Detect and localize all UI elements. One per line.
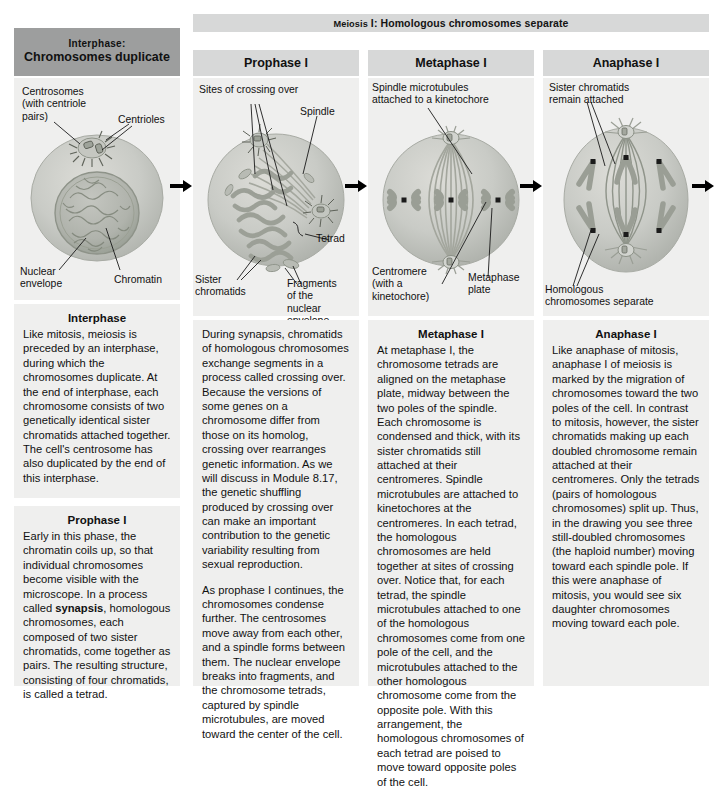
prophase-illustration: Sites of crossing over Spindle Tetrad Si… [193, 78, 359, 316]
anaphase-header: Anaphase I [543, 50, 709, 76]
interphase-header-line1: Interphase: [68, 38, 125, 51]
prophase-body-text-1: During synapsis, chromatids of homologou… [202, 327, 350, 572]
label-spindle: Spindle [300, 106, 335, 118]
column-anaphase: Anaphase I [543, 14, 709, 694]
anaphase-body-text: Like anaphase of mitosis, anaphase I of … [552, 343, 700, 631]
interphase-body-title: Interphase [23, 311, 171, 326]
metaphase-illustration: Spindle microtubules attached to a kinet… [368, 78, 534, 316]
interphase-text-block: Interphase Like mitosis, meiosis is prec… [14, 304, 180, 498]
prophase-left-text: Early in this phase, the chromatin coils… [23, 529, 171, 702]
prophase-header: Prophase I [193, 50, 359, 76]
label-sites-of-crossing-over: Sites of crossing over [199, 84, 298, 96]
label-metaphase-plate: Metaphase plate [468, 272, 519, 297]
prophase-left-bold: synapsis [55, 602, 103, 614]
label-centromere: Centromere (with a kinetochore) [372, 266, 429, 303]
label-sister-chromatids: Sister chromatids [195, 274, 246, 299]
interphase-header-line2: Chromosomes duplicate [24, 50, 170, 66]
arrow-icon-metaphase-to-anaphase [520, 178, 542, 194]
metaphase-header-text: Metaphase I [415, 56, 487, 70]
metaphase-header: Metaphase I [368, 50, 534, 76]
label-chromatin: Chromatin [114, 274, 162, 286]
anaphase-header-text: Anaphase I [593, 56, 660, 70]
metaphase-body-title: Metaphase I [377, 327, 525, 342]
anaphase-illustration: Sister chromatids remain attached Homolo… [543, 78, 709, 316]
interphase-body-text: Like mitosis, meiosis is preceded by an … [23, 327, 171, 485]
metaphase-body-text: At metaphase I, the chromosome tetrads a… [377, 343, 525, 789]
column-interphase: Interphase: Chromosomes duplicate [14, 14, 180, 694]
anaphase-body-title: Anaphase I [552, 327, 700, 342]
interphase-header: Interphase: Chromosomes duplicate [14, 28, 180, 76]
interphase-prophase-text-block: Prophase I Early in this phase, the chro… [14, 506, 180, 686]
arrow-icon-interphase-to-prophase [170, 178, 192, 194]
column-prophase: Prophase I [193, 14, 359, 694]
column-metaphase: Metaphase I [368, 14, 534, 694]
prophase-body-text-2: As prophase I continues, the chromosomes… [202, 583, 350, 741]
prophase-left-text-b: , homologous chromosomes, each composed … [23, 602, 170, 700]
arrow-icon-prophase-to-metaphase [345, 178, 367, 194]
label-centrioles: Centrioles [118, 114, 165, 126]
label-spindle-microtubules: Spindle microtubules attached to a kinet… [372, 82, 489, 107]
prophase-left-title: Prophase I [23, 513, 171, 528]
label-tetrad: Tetrad [316, 233, 345, 245]
label-nuclear-envelope: Nuclear envelope [20, 266, 62, 291]
prophase-header-text: Prophase I [244, 56, 308, 70]
label-sister-chromatids-attached: Sister chromatids remain attached [549, 82, 629, 107]
interphase-illustration: Centrosomes (with centriole pairs) Centr… [14, 78, 180, 300]
label-homologous-separate: Homologous chromosomes separate [545, 284, 654, 309]
arrow-icon-anaphase-continues [692, 178, 714, 194]
anaphase-cell-art [543, 78, 709, 316]
metaphase-text-block: Metaphase I At metaphase I, the chromoso… [368, 320, 534, 686]
prophase-text-block: During synapsis, chromatids of homologou… [193, 320, 359, 686]
anaphase-text-block: Anaphase I Like anaphase of mitosis, ana… [543, 320, 709, 686]
label-centrosomes: Centrosomes (with centriole pairs) [22, 86, 86, 123]
